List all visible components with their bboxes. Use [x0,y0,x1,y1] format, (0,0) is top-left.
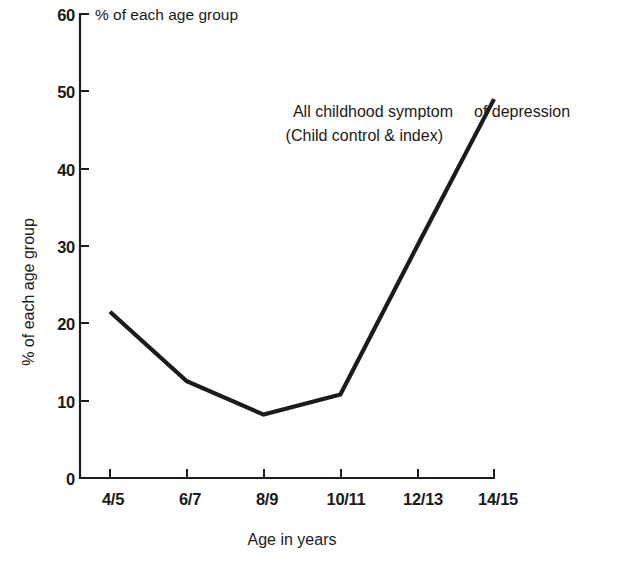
y-tick-label-30: 30 [57,238,75,256]
y-tick-label-60: 60 [57,6,75,24]
y-tick-label-40: 40 [57,161,75,179]
y-tick-label-50: 50 [57,83,75,101]
chart-figure: 60 50 40 30 20 10 0 4/5 6/7 8/9 10/11 12… [0,0,624,567]
annotation-line-1-right: of depression [474,103,570,120]
x-tick-label-12-13: 12/13 [403,490,443,508]
chart-header-note: % of each age group [95,6,238,23]
x-axis-title: Age in years [248,531,337,548]
y-tick-label-10: 10 [57,393,75,411]
y-tick-label-20: 20 [57,315,75,333]
x-tick-label-14-15: 14/15 [478,490,518,508]
x-tick-label-8-9: 8/9 [256,490,278,508]
x-tick-label-4-5: 4/5 [102,490,124,508]
line-chart-svg: 60 50 40 30 20 10 0 4/5 6/7 8/9 10/11 12… [0,0,624,567]
annotation-line-1-left: All childhood symptom [293,103,453,120]
x-tick-label-6-7: 6/7 [179,490,201,508]
y-axis-title: % of each age group [20,218,37,366]
y-tick-label-0: 0 [66,470,75,488]
annotation-line-2-left: (Child control & index) [286,127,443,144]
chart-background [0,0,624,567]
x-tick-label-10-11: 10/11 [327,490,366,508]
